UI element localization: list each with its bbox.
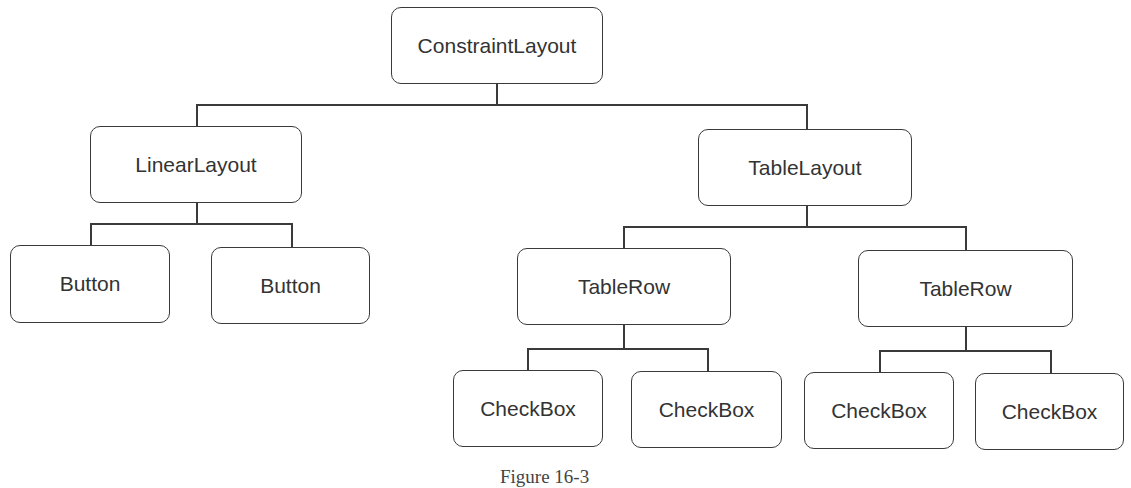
connector-to-linearlayout	[196, 104, 198, 126]
node-constraintlayout: ConstraintLayout	[391, 7, 603, 84]
node-checkbox-2: CheckBox	[631, 371, 782, 448]
node-checkbox-3: CheckBox	[804, 372, 954, 449]
node-checkbox-4: CheckBox	[975, 373, 1124, 450]
node-button-2: Button	[211, 247, 370, 324]
node-tablerow-2: TableRow	[858, 250, 1073, 327]
connector-linearlayout-down	[196, 203, 198, 224]
connector-to-checkbox-1	[527, 348, 529, 370]
node-checkbox-1: CheckBox	[453, 370, 603, 447]
connector-to-tablerow-2	[965, 226, 967, 250]
connector-tablelayout-down	[806, 206, 808, 227]
connector-tablerow-1-down	[623, 325, 625, 348]
connector-root-horizontal	[196, 104, 807, 106]
connector-tablerow-2-down	[965, 327, 967, 350]
connector-linearlayout-horizontal	[90, 223, 292, 225]
figure-caption: Figure 16-3	[500, 466, 589, 488]
connector-to-tablerow-1	[623, 226, 625, 248]
connector-to-button-2	[291, 223, 293, 247]
connector-root-down	[496, 84, 498, 105]
connector-tablerow-2-horizontal	[879, 350, 1050, 352]
connector-to-checkbox-3	[879, 350, 881, 372]
connector-to-checkbox-2	[707, 348, 709, 371]
connector-tablerow-1-horizontal	[527, 348, 708, 350]
connector-to-checkbox-4	[1050, 350, 1052, 373]
connector-tablelayout-horizontal	[623, 226, 966, 228]
connector-to-tablelayout	[806, 104, 808, 129]
node-linearlayout: LinearLayout	[90, 126, 302, 203]
connector-to-button-1	[90, 223, 92, 246]
node-tablelayout: TableLayout	[698, 129, 912, 206]
node-button-1: Button	[10, 245, 170, 323]
node-tablerow-1: TableRow	[517, 248, 731, 325]
